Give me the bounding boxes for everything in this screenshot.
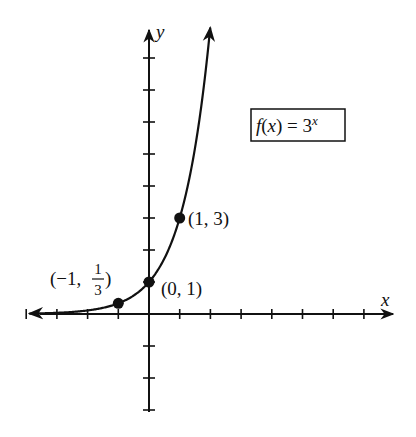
graph-canvas: y x f(x) = 3x (1, 3) (0, 1) (−1, 1 3 ) — [0, 0, 416, 437]
fraction-denominator: 3 — [94, 282, 102, 298]
function-label: f(x) = 3x — [256, 113, 318, 137]
function-exponent: x — [311, 113, 318, 128]
point-label-neg1-third: (−1, — [50, 268, 81, 290]
data-point — [174, 213, 185, 224]
function-rest: ) = 3 — [276, 115, 312, 137]
point-label-neg1-open: (−1, — [50, 268, 81, 290]
x-axis-label: x — [380, 289, 390, 310]
y-axis-label: y — [154, 21, 165, 42]
point-label-1-3: (1, 3) — [188, 208, 229, 230]
exponential-graph: y x f(x) = 3x (1, 3) (0, 1) (−1, 1 3 ) — [0, 0, 416, 437]
fraction-numerator: 1 — [94, 261, 102, 277]
point-label-0-1: (0, 1) — [161, 278, 202, 300]
data-point — [113, 298, 124, 309]
data-point — [144, 277, 155, 288]
point-label-neg1-close: ) — [105, 268, 111, 290]
